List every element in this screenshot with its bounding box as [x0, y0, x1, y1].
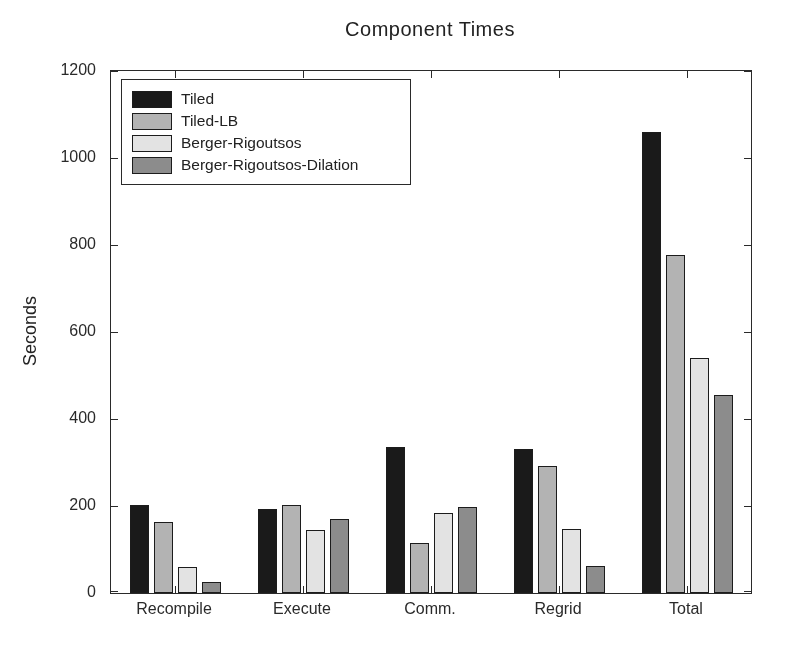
figure: Component Times Seconds TiledTiled-LBBer… [0, 0, 794, 646]
bar [386, 447, 405, 593]
legend-swatch [132, 113, 172, 130]
bar [538, 466, 557, 593]
bar [154, 522, 173, 593]
legend-label: Tiled-LB [181, 112, 238, 130]
x-tick-label: Execute [238, 600, 366, 618]
bar [434, 513, 453, 593]
bar [130, 505, 149, 593]
x-axis-tick [175, 586, 176, 593]
y-tick-label: 400 [36, 410, 96, 426]
bar [586, 566, 605, 593]
bar [330, 519, 349, 593]
x-axis-tick [175, 71, 176, 78]
bar-group [623, 71, 751, 593]
x-tick-label: Recompile [110, 600, 238, 618]
legend-item: Berger-Rigoutsos [132, 133, 400, 153]
bar [690, 358, 709, 593]
legend-item: Berger-Rigoutsos-Dilation [132, 155, 400, 175]
bar [306, 530, 325, 593]
x-tick-label: Total [622, 600, 750, 618]
bar [202, 582, 221, 593]
bar [642, 132, 661, 593]
y-tick-label: 800 [36, 236, 96, 252]
y-tick-label: 1000 [36, 149, 96, 165]
bar [178, 567, 197, 593]
x-axis-tick [431, 71, 432, 78]
legend-swatch [132, 91, 172, 108]
y-tick-label: 600 [36, 323, 96, 339]
legend-item: Tiled [132, 89, 400, 109]
legend-swatch [132, 157, 172, 174]
chart-title: Component Times [110, 18, 750, 41]
x-axis-tick [559, 71, 560, 78]
x-axis-tick [303, 586, 304, 593]
bar-group [495, 71, 623, 593]
bar [562, 529, 581, 593]
bar [258, 509, 277, 593]
x-axis-tick [687, 586, 688, 593]
x-tick-label: Regrid [494, 600, 622, 618]
legend-label: Berger-Rigoutsos-Dilation [181, 156, 358, 174]
x-tick-label: Comm. [366, 600, 494, 618]
legend-item: Tiled-LB [132, 111, 400, 131]
plot-area: TiledTiled-LBBerger-RigoutsosBerger-Rigo… [110, 70, 752, 594]
bar [458, 507, 477, 593]
legend-swatch [132, 135, 172, 152]
bar [410, 543, 429, 593]
x-axis-tick [559, 586, 560, 593]
y-tick-label: 0 [36, 584, 96, 600]
legend-label: Berger-Rigoutsos [181, 134, 302, 152]
legend-label: Tiled [181, 90, 214, 108]
bar [666, 255, 685, 593]
x-axis-tick [303, 71, 304, 78]
bar [514, 449, 533, 593]
y-tick-label: 1200 [36, 62, 96, 78]
bar [714, 395, 733, 593]
x-axis-tick [687, 71, 688, 78]
legend: TiledTiled-LBBerger-RigoutsosBerger-Rigo… [121, 79, 411, 185]
x-axis-tick [431, 586, 432, 593]
y-tick-label: 200 [36, 497, 96, 513]
bar [282, 505, 301, 593]
